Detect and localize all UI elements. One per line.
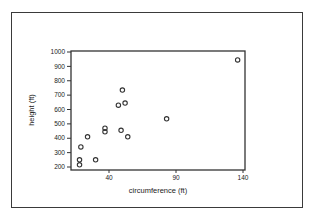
data-point [123,101,127,105]
y-axis: 2003004005006007008009001000 [51,48,71,170]
data-point [93,158,97,162]
plot-border [71,51,245,170]
data-points [77,58,240,167]
y-tick-label: 400 [54,134,65,141]
data-point [77,163,81,167]
y-axis-label: height (ft) [27,94,36,126]
y-tick-label: 300 [54,149,65,156]
x-tick-label: 40 [105,174,113,181]
data-point [120,88,124,92]
y-tick-label: 600 [54,106,65,113]
data-point [164,117,168,121]
x-tick-label: 140 [238,174,249,181]
data-point [85,135,89,139]
x-axis-label: circumference (ft) [129,186,188,195]
data-point [77,158,81,162]
x-tick-label: 90 [172,174,180,181]
data-point [116,103,120,107]
y-tick-label: 500 [54,120,65,127]
y-tick-label: 1000 [51,48,66,55]
x-axis: 4090140 [105,170,248,181]
y-tick-label: 800 [54,77,65,84]
y-tick-label: 700 [54,91,65,98]
data-point [119,128,123,132]
data-point [126,135,130,139]
data-point [235,58,239,62]
y-tick-label: 900 [54,63,65,70]
y-tick-label: 200 [54,163,65,170]
data-point [79,145,83,149]
scatter-plot: 4090140 2003004005006007008009001000 cir… [0,0,311,218]
plot-area [71,51,245,170]
